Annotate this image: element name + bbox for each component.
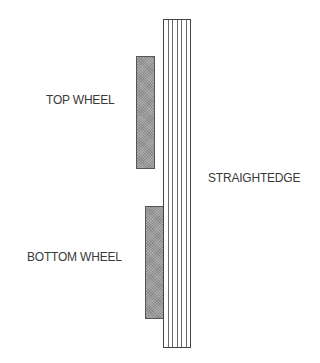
bottom-wheel-shape: [145, 206, 164, 319]
straightedge-line: [177, 20, 178, 347]
top-wheel-label: TOP WHEEL: [46, 93, 114, 107]
straightedge-line: [181, 20, 182, 347]
straightedge-line: [186, 20, 187, 347]
straightedge-shape: [163, 19, 191, 348]
bottom-wheel-label: BOTTOM WHEEL: [27, 250, 122, 264]
top-wheel-shape: [136, 56, 155, 169]
straightedge-line: [172, 20, 173, 347]
straightedge-line: [168, 20, 169, 347]
straightedge-label: STRAIGHTEDGE: [208, 171, 300, 185]
